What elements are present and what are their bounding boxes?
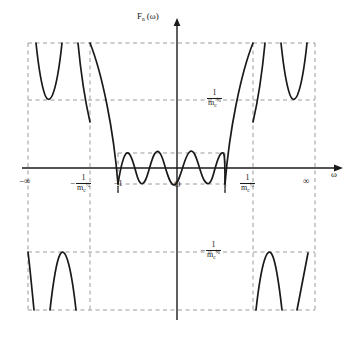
figure-container: Fn(ω) ω −∞ ∞ − 1 mc½ 1 mc½ −1 O 1 1 mc½ bbox=[0, 0, 355, 337]
curve-lower-left-edge bbox=[28, 252, 34, 310]
tick-label-pos-infinity: ∞ bbox=[303, 177, 309, 186]
fraction-upper-y: 1 mc½ bbox=[207, 89, 222, 108]
tick-label-pos-inv-root-mc-y: 1 mc½ bbox=[207, 89, 222, 108]
fraction-denominator: mc½ bbox=[240, 184, 255, 192]
curve-upper-left-tail bbox=[78, 43, 90, 122]
curve-upper-right-tail bbox=[253, 43, 265, 122]
fraction-denominator: mc½ bbox=[206, 251, 221, 259]
axes-group bbox=[22, 26, 334, 320]
tick-label-neg-inv-root-mc-y: − 1 mc½ bbox=[200, 241, 221, 260]
fraction-denominator: mc½ bbox=[207, 99, 222, 107]
tick-label-pos-one: 1 bbox=[223, 180, 227, 188]
curve-lower-left-arch bbox=[50, 252, 76, 310]
y-axis-label-arg: (ω) bbox=[145, 11, 159, 21]
fraction-den-sup: ½ bbox=[86, 182, 90, 188]
fraction-left-x: 1 mc½ bbox=[76, 174, 91, 193]
fraction-right-x: 1 mc½ bbox=[240, 174, 255, 193]
x-axis-label: ω bbox=[331, 170, 337, 179]
tick-label-pos-inv-root-m: 1 mc½ bbox=[240, 174, 255, 193]
curve-right-divergent bbox=[225, 43, 253, 184]
origin-label: O bbox=[174, 180, 181, 189]
fraction-den-sup: ½ bbox=[250, 182, 254, 188]
curve-upper-left-u bbox=[36, 43, 62, 99]
tick-label-neg-inv-root-m: − 1 mc½ bbox=[70, 174, 91, 193]
fraction-denominator: mc½ bbox=[76, 184, 91, 192]
y-axis-label-sub: n bbox=[142, 16, 145, 22]
fraction-den-sup: ½ bbox=[216, 249, 220, 255]
curve-upper-right-u bbox=[281, 43, 307, 99]
curve-lower-right-arch bbox=[256, 252, 282, 310]
y-axis-label: Fn(ω) bbox=[137, 12, 159, 21]
tick-label-neg-one: −1 bbox=[114, 180, 123, 188]
curve-lower-right-edge bbox=[297, 253, 308, 310]
fraction-den-sup: ½ bbox=[217, 97, 221, 103]
curve-left-divergent bbox=[90, 43, 118, 184]
tick-marks bbox=[118, 186, 225, 193]
plot-canvas bbox=[0, 0, 355, 337]
y-axis-arrowhead bbox=[174, 18, 181, 26]
fraction-lower-y: 1 mc½ bbox=[206, 241, 221, 260]
tick-label-neg-infinity: −∞ bbox=[19, 177, 31, 186]
